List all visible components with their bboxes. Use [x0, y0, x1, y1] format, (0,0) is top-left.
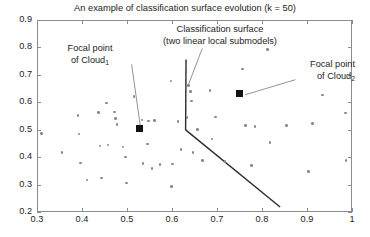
y-tick-0.4	[348, 157, 352, 158]
y-tick-0.7	[37, 75, 41, 76]
x-tick-1	[352, 20, 353, 24]
annotation-focal-cloud-2-line-1: Focal point	[310, 59, 355, 69]
scatter-point	[153, 119, 156, 122]
y-tick-label-0.9: 0.9	[2, 14, 32, 24]
scatter-point	[100, 177, 103, 180]
x-tick-label-0.6: 0.6	[155, 214, 189, 224]
scatter-point	[97, 111, 100, 114]
scatter-point	[307, 170, 310, 173]
scatter-point	[170, 185, 173, 188]
scatter-point	[250, 164, 253, 167]
x-tick-0.4	[82, 20, 83, 24]
x-tick-label-0.9: 0.9	[290, 214, 324, 224]
y-tick-0.5	[348, 130, 352, 131]
scatter-point	[344, 112, 347, 115]
chart-title: An example of classification surface evo…	[0, 3, 370, 13]
scatter-point	[114, 117, 117, 120]
y-tick-0.3	[348, 185, 352, 186]
y-tick-0.2	[348, 212, 352, 213]
scatter-point	[159, 163, 162, 166]
x-tick-0.8	[262, 208, 263, 212]
scatter-point	[311, 122, 314, 125]
annotation-focal-cloud-1-line-2: of Cloud1	[48, 55, 132, 67]
scatter-point	[79, 162, 82, 165]
y-tick-0.6	[37, 102, 41, 103]
scatter-point	[201, 159, 204, 162]
scatter-point	[241, 68, 244, 71]
y-tick-0.4	[37, 157, 41, 158]
y-tick-label-0.3: 0.3	[2, 179, 32, 189]
scatter-point	[209, 89, 212, 92]
x-tick-label-0.4: 0.4	[65, 214, 99, 224]
focal-point-cloud-2	[236, 90, 243, 97]
y-tick-label-0.4: 0.4	[2, 151, 32, 161]
x-tick-label-0.5: 0.5	[110, 214, 144, 224]
x-tick-0.9	[307, 20, 308, 24]
scatter-point	[285, 124, 288, 127]
annotation-classification-surface-line-2: (two linear local submodels)	[157, 36, 283, 48]
annotation-classification-surface: Classification surface(two linear local …	[157, 24, 283, 47]
y-tick-0.8	[37, 47, 41, 48]
x-tick-0.9	[307, 208, 308, 212]
x-tick-0.5	[127, 208, 128, 212]
scatter-point	[146, 143, 149, 146]
annotation-classification-surface-leader-line	[188, 48, 202, 86]
annotation-classification-surface-line-1: Classification surface	[177, 24, 264, 34]
scatter-point	[196, 128, 199, 131]
y-tick-0.9	[348, 20, 352, 21]
scatter-point	[113, 111, 116, 114]
y-tick-label-0.8: 0.8	[2, 41, 32, 51]
focal-point-cloud-1	[136, 125, 143, 132]
scatter-point	[187, 84, 190, 87]
y-tick-0.5	[37, 130, 41, 131]
y-tick-label-0.6: 0.6	[2, 96, 32, 106]
y-tick-0.6	[348, 102, 352, 103]
scatter-point	[77, 114, 80, 117]
x-tick-label-0.7: 0.7	[200, 214, 234, 224]
annotation-focal-cloud-2-line-2: of Cloud2	[277, 71, 355, 83]
x-tick-label-0.8: 0.8	[245, 214, 279, 224]
lower-oblique-submodel	[186, 130, 281, 207]
y-tick-0.2	[37, 212, 41, 213]
annotation-focal-cloud-1-subscript: 1	[105, 59, 109, 66]
annotation-focal-cloud-2-subscript: 2	[351, 75, 355, 82]
annotation-focal-cloud-2: Focal pointof Cloud2	[277, 59, 355, 82]
y-tick-0.8	[348, 47, 352, 48]
scatter-point	[266, 48, 269, 51]
y-tick-label-0.5: 0.5	[2, 124, 32, 134]
x-tick-0.6	[172, 208, 173, 212]
x-tick-0.4	[82, 208, 83, 212]
annotation-focal-cloud-1-line-1: Focal point	[68, 43, 113, 53]
y-tick-0.9	[37, 20, 41, 21]
annotation-focal-cloud-1: Focal pointof Cloud1	[48, 43, 132, 66]
scatter-point	[244, 124, 247, 127]
y-tick-label-0.7: 0.7	[2, 69, 32, 79]
scatter-point	[40, 132, 43, 135]
scatter-point	[189, 90, 192, 93]
scatter-point	[186, 116, 189, 119]
y-tick-label-0.2: 0.2	[2, 206, 32, 216]
x-tick-1	[352, 208, 353, 212]
scatter-point	[190, 100, 193, 103]
x-tick-0.5	[127, 20, 128, 24]
scatter-point	[254, 125, 257, 128]
scatter-point	[147, 120, 150, 123]
chart-container: An example of classification surface evo…	[0, 0, 370, 237]
scatter-point	[177, 120, 180, 123]
x-tick-0.7	[217, 208, 218, 212]
y-tick-0.3	[37, 185, 41, 186]
x-tick-label-1: 1	[335, 214, 369, 224]
